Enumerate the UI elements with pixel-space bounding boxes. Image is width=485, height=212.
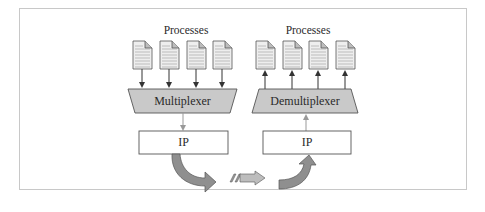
send-curved-arrow (172, 154, 216, 192)
document-icon (213, 41, 232, 69)
receiver-process-icons (256, 41, 355, 69)
receiver-ip-label: IP (263, 135, 351, 150)
sender-processes-label: Processes (148, 24, 224, 36)
sender-ip-label: IP (139, 135, 228, 150)
transmission-arrow (230, 171, 265, 185)
diagram-canvas (0, 0, 485, 212)
document-icon (283, 41, 302, 69)
document-icon (336, 41, 355, 69)
document-icon (133, 41, 152, 69)
receiver-processes-label: Processes (270, 24, 346, 36)
demultiplexer-label: Demultiplexer (252, 94, 358, 109)
document-icon (187, 41, 206, 69)
document-icon (256, 41, 275, 69)
sender-down-arrows (142, 69, 222, 85)
receive-curved-arrow (279, 155, 316, 189)
multiplexer-label: Multiplexer (135, 94, 230, 109)
document-icon (160, 41, 179, 69)
receiver-up-arrows (265, 73, 345, 89)
sender-process-icons (133, 41, 232, 69)
document-icon (309, 41, 328, 69)
